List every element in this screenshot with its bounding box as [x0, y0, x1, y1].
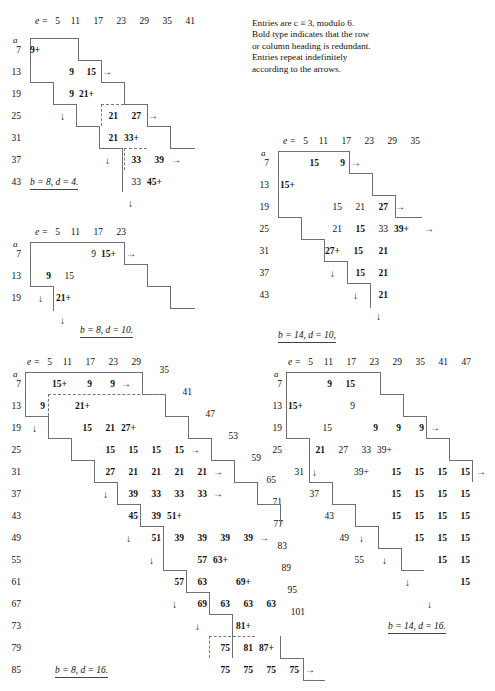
- entry: 39: [170, 533, 184, 543]
- border: [309, 438, 310, 482]
- entry: 9: [364, 423, 378, 433]
- entry: 57: [170, 577, 184, 587]
- col-header: 23: [365, 357, 379, 367]
- row-header: 79: [5, 643, 21, 653]
- entry: 63: [193, 577, 207, 587]
- border: [211, 438, 212, 460]
- border: [30, 242, 124, 243]
- row-header: 55: [348, 555, 364, 565]
- right-arrow-icon: →: [213, 489, 223, 499]
- row-header: 67: [5, 599, 21, 609]
- entry: 39+: [354, 467, 378, 477]
- entry: 15: [456, 467, 470, 477]
- border: [30, 286, 53, 287]
- border: [76, 104, 77, 126]
- row-header: 13: [253, 180, 269, 190]
- border: [278, 151, 279, 217]
- right-arrow-icon: →: [148, 111, 158, 121]
- border: [403, 416, 426, 417]
- right-arrow-icon: →: [126, 249, 136, 259]
- row-header: 37: [253, 268, 269, 278]
- entry: 15+: [288, 401, 312, 411]
- row-header: 85: [5, 665, 21, 675]
- col-header: 11: [319, 357, 333, 367]
- row-header: 7: [5, 249, 21, 259]
- entry: 75: [262, 665, 276, 675]
- dashed-highlight: [124, 148, 125, 170]
- border: [372, 173, 373, 195]
- entry: 15: [82, 67, 96, 77]
- col-header: 17: [337, 136, 351, 146]
- down-arrow-icon: ↓: [312, 468, 317, 478]
- border: [286, 372, 287, 438]
- entry: 15: [60, 271, 74, 281]
- col-header: 29: [135, 16, 149, 26]
- border: [234, 460, 235, 482]
- down-arrow-icon: ↓: [38, 294, 43, 304]
- table-caption: b = 8, d = 10.: [80, 325, 133, 338]
- down-arrow-icon: ↓: [126, 534, 131, 544]
- col-header: 23: [112, 16, 126, 26]
- entry: 39: [239, 533, 253, 543]
- entry: 39+: [394, 224, 418, 234]
- down-arrow-icon: ↓: [128, 199, 133, 209]
- entry: 15: [351, 224, 365, 234]
- down-arrow-icon: ↓: [427, 600, 432, 610]
- border: [324, 261, 347, 262]
- col-header: 41: [434, 357, 448, 367]
- col-header: 47: [457, 357, 471, 367]
- row-header: 7: [266, 379, 282, 389]
- entry: 69: [193, 599, 207, 609]
- row-header: 19: [266, 423, 282, 433]
- entry: 9: [387, 423, 401, 433]
- right-arrow-icon: →: [121, 379, 131, 389]
- row-header: 73: [5, 621, 21, 631]
- row-header: 31: [288, 467, 304, 477]
- entry: 33: [170, 489, 184, 499]
- border: [186, 592, 209, 593]
- col-header: 101: [285, 607, 305, 617]
- entry: 21+: [79, 89, 103, 99]
- entry: 51: [147, 533, 161, 543]
- border: [401, 548, 402, 570]
- note-line: Bold type indicates that the row: [252, 29, 371, 40]
- entry: 33: [374, 224, 388, 234]
- entry: 75: [216, 643, 230, 653]
- row-header: 13: [5, 401, 21, 411]
- col-header: 17: [89, 16, 103, 26]
- down-arrow-icon: ↓: [405, 578, 410, 588]
- right-arrow-icon: →: [190, 445, 200, 455]
- border: [147, 264, 148, 286]
- dashed-highlight: [209, 636, 255, 637]
- border: [170, 286, 171, 308]
- dashed-highlight: [48, 394, 165, 395]
- table-caption: b = 14, d = 10,: [278, 330, 336, 343]
- border: [140, 526, 163, 527]
- entry: 27: [127, 111, 141, 121]
- row-header: 7: [5, 379, 21, 389]
- border: [48, 438, 71, 439]
- col-header: 11: [66, 227, 80, 237]
- down-arrow-icon: ↓: [172, 600, 177, 610]
- down-arrow-icon: ↓: [103, 490, 108, 500]
- entry: 39: [193, 533, 207, 543]
- entry: 39: [216, 533, 230, 543]
- entry: 21+: [75, 401, 99, 411]
- row-header: 25: [5, 445, 21, 455]
- border: [30, 82, 53, 83]
- border: [30, 242, 31, 286]
- border: [140, 504, 141, 526]
- row-header: 13: [5, 67, 21, 77]
- border: [278, 151, 349, 152]
- a-label: a: [13, 239, 18, 249]
- col-header: 53: [224, 431, 238, 441]
- border: [101, 82, 124, 83]
- border: [395, 217, 422, 218]
- entry: 21: [374, 268, 388, 278]
- legend-note: Entries are c ≡ 3, modulo 6. Bold type i…: [252, 18, 371, 75]
- row-header: 31: [5, 133, 21, 143]
- col-header: 29: [383, 136, 397, 146]
- entry: 27: [374, 202, 388, 212]
- border: [53, 104, 76, 105]
- entry: 63: [239, 599, 253, 609]
